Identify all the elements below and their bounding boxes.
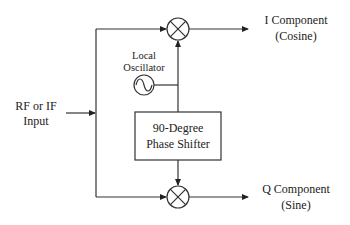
i-label-line1: I Component (265, 13, 329, 27)
lo-label-line1: Local (132, 50, 156, 61)
q-label-line2: (Sine) (281, 198, 310, 212)
bottom-mixer-icon (167, 186, 189, 208)
phase-shifter-block: 90-Degree Phase Shifter (135, 112, 221, 160)
phase-shifter-line2: Phase Shifter (146, 137, 210, 151)
input-label: RF or IF Input (15, 99, 57, 128)
iq-demodulator-diagram: RF or IF Input Local Oscillator 90-Degre… (0, 0, 350, 225)
i-output-label: I Component (Cosine) (265, 13, 329, 43)
q-label-line1: Q Component (262, 182, 330, 196)
i-label-line2: (Cosine) (275, 29, 316, 43)
local-oscillator-label: Local Oscillator (123, 50, 165, 73)
q-output-label: Q Component (Sine) (262, 182, 330, 212)
lo-label-line2: Oscillator (123, 62, 165, 73)
input-label-line1: RF or IF (15, 99, 57, 113)
phase-shifter-line1: 90-Degree (153, 121, 204, 135)
top-mixer-icon (167, 18, 189, 40)
input-label-line2: Input (23, 114, 49, 128)
sine-wave-icon (134, 75, 154, 95)
